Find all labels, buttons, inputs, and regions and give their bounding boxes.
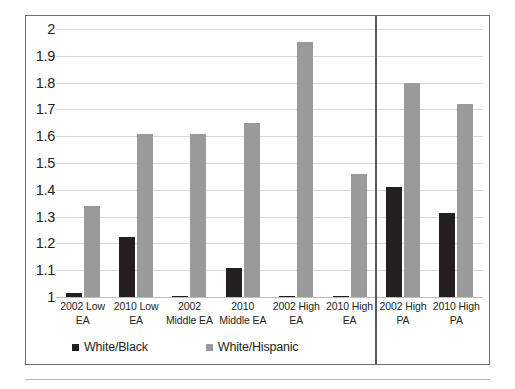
x-axis-tick-line: PA [376, 314, 429, 328]
y-axis-tick-label: 1.8 [36, 75, 55, 91]
footer-rule [25, 379, 490, 380]
x-axis-tick-label: 2010Middle EA [216, 300, 269, 327]
chart-legend: White/Black White/Hispanic [56, 338, 298, 356]
x-axis-tick-label: 2002Middle EA [163, 300, 216, 327]
legend-swatch-icon [206, 344, 213, 351]
bar [119, 237, 135, 297]
x-axis-tick-line: 2002 Low [56, 300, 109, 314]
x-axis-tick-label: 2010 HighEA [323, 300, 376, 327]
x-axis-tick-label: 2010 HighPA [430, 300, 483, 327]
x-axis-tick-line: 2002 High [270, 300, 323, 314]
x-axis-tick-line: EA [109, 314, 162, 328]
x-axis-tick-line: EA [56, 314, 109, 328]
x-axis-tick-line: 2010 [216, 300, 269, 314]
y-axis-tick-label: 1 [47, 289, 55, 305]
x-axis: 2002 LowEA2010 LowEA2002Middle EA2010Mid… [56, 300, 483, 332]
x-axis-tick-label: 2002 HighPA [376, 300, 429, 327]
legend-item-white-hispanic[interactable]: White/Hispanic [206, 340, 299, 354]
x-axis-tick-label: 2010 LowEA [109, 300, 162, 327]
bar [404, 83, 420, 297]
y-axis: 21.91.81.71.61.51.41.31.21.11 [25, 29, 55, 297]
legend-label: White/Hispanic [218, 340, 299, 354]
y-axis-tick-label: 1.6 [36, 128, 55, 144]
bar [457, 104, 473, 297]
y-axis-tick-label: 1.1 [36, 262, 55, 278]
y-axis-tick-label: 1.2 [36, 235, 55, 251]
bar [137, 134, 153, 297]
legend-label: White/Black [84, 340, 148, 354]
bar [351, 174, 367, 297]
x-axis-tick-line: 2010 High [430, 300, 483, 314]
legend-item-white-black[interactable]: White/Black [72, 340, 148, 354]
bar [172, 296, 188, 297]
x-axis-tick-line: EA [270, 314, 323, 328]
gridline [56, 56, 483, 57]
bar [84, 206, 100, 297]
y-axis-tick-label: 1.5 [36, 155, 55, 171]
bar [226, 268, 242, 297]
x-axis-tick-line: EA [323, 314, 376, 328]
y-axis-tick-label: 1.9 [36, 48, 55, 64]
x-axis-tick-line: Middle EA [163, 314, 216, 328]
y-axis-tick-label: 1.7 [36, 101, 55, 117]
chart-figure: 21.91.81.71.61.51.41.31.21.11 2002 LowEA… [0, 0, 515, 389]
gridline [56, 29, 483, 30]
plot-area [56, 29, 483, 297]
bar [279, 296, 295, 297]
x-axis-tick-label: 2002 HighEA [270, 300, 323, 327]
bar [333, 296, 349, 297]
x-axis-tick-label: 2002 LowEA [56, 300, 109, 327]
x-axis-tick-line: 2002 [163, 300, 216, 314]
x-axis-tick-line: PA [430, 314, 483, 328]
y-axis-tick-label: 2 [47, 21, 55, 37]
bar [190, 134, 206, 297]
bar [244, 123, 260, 297]
bar [386, 187, 402, 297]
y-axis-tick-label: 1.4 [36, 182, 55, 198]
bar [297, 42, 313, 297]
x-axis-tick-line: Middle EA [216, 314, 269, 328]
x-axis-tick-line: 2010 High [323, 300, 376, 314]
x-axis-tick-line: 2010 Low [109, 300, 162, 314]
y-axis-tick-label: 1.3 [36, 209, 55, 225]
gridline [56, 297, 483, 298]
bar [439, 213, 455, 297]
bar [66, 293, 82, 297]
x-axis-tick-line: 2002 High [376, 300, 429, 314]
legend-swatch-icon [72, 344, 79, 351]
